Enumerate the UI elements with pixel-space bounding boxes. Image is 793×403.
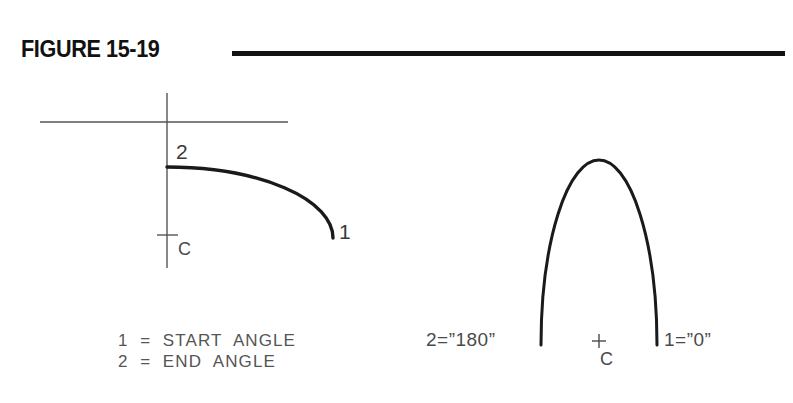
figure-title: FIGURE 15-19 [21,36,159,62]
left-end-angle-label: 2 [176,141,188,162]
left-construction-axes [40,93,288,268]
left-center-label: C [178,240,191,258]
figure-canvas: FIGURE 15-19 2 1 C 1 = START ANGLE 2 = E… [0,0,793,403]
left-quadrant-arc [167,167,333,238]
left-start-angle-label: 1 [339,221,351,242]
right-arch-arc [541,160,657,345]
legend-row-end-angle: 2 = END ANGLE [118,351,296,372]
right-center-cross-icon [592,334,606,348]
legend-block: 1 = START ANGLE 2 = END ANGLE [118,330,296,372]
title-rule-divider [232,51,785,56]
right-end-angle-label: 2=”180” [426,330,496,349]
legend-row-start-angle: 1 = START ANGLE [118,330,296,351]
right-start-angle-label: 1=”0” [664,330,711,349]
right-center-label: C [600,350,613,368]
